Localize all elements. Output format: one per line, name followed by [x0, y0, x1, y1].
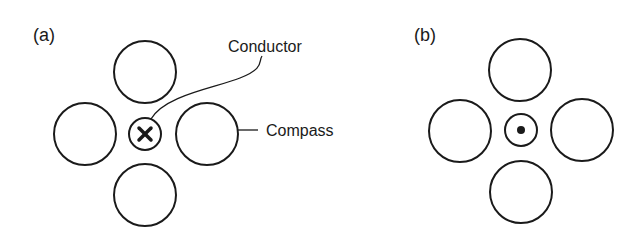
conductor-into-page-icon [129, 118, 161, 150]
compass-right-icon [176, 103, 238, 165]
panel-a-label: (a) [33, 25, 55, 45]
conductor-leader-line [151, 56, 262, 119]
panel-b: (b) [414, 25, 613, 223]
conductor-out-of-page-icon [505, 114, 537, 146]
conductor-callout-label: Conductor [228, 38, 302, 55]
compass-callout-label: Compass [266, 122, 334, 139]
compass-bottom-icon [490, 161, 552, 223]
diagram-canvas: (a) Conductor Compass (b) [0, 0, 642, 235]
compass-left-icon [429, 100, 491, 162]
compass-right-icon [551, 99, 613, 161]
panel-a: (a) Conductor Compass [33, 25, 334, 226]
compass-top-icon [114, 41, 176, 103]
panel-b-label: (b) [414, 25, 436, 45]
compass-left-icon [54, 103, 116, 165]
compass-top-icon [489, 39, 551, 101]
compass-bottom-icon [114, 164, 176, 226]
